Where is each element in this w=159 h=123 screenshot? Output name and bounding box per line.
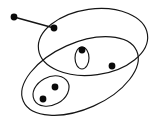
right-interior-point [109,63,116,70]
small-tilted-ellipse [28,70,75,113]
outer-free-point [11,14,18,21]
lower-left-large-ellipse [10,21,150,123]
inner-upper-point [52,84,59,91]
edge-outer-to-inner [14,17,54,28]
set-diagram-svg [0,0,159,123]
edge-endpoint-point [51,25,58,32]
upper-right-large-ellipse [34,2,152,83]
diagram-canvas [0,0,159,123]
point-above-small-vertical-ellipse [79,47,86,54]
inner-lower-point [40,96,47,103]
